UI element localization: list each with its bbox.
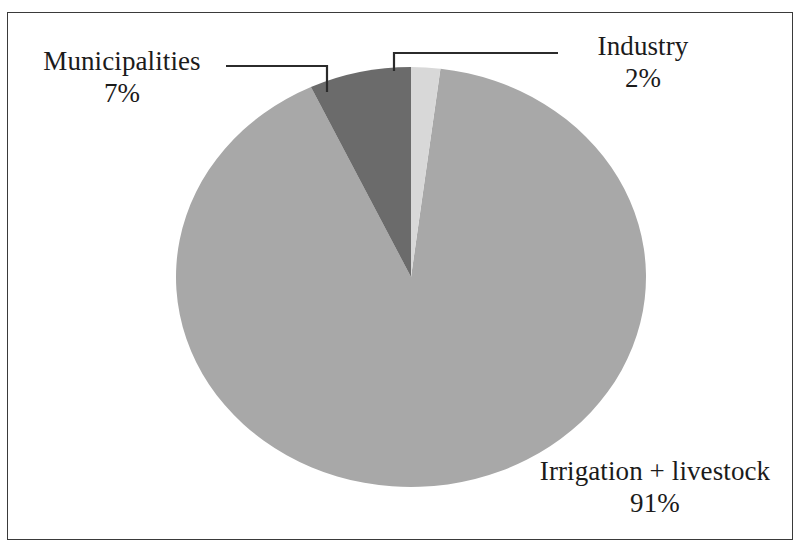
slice-label-irrigation-livestock-name: Irrigation + livestock (530, 456, 780, 488)
slice-label-industry-name: Industry (560, 31, 726, 63)
slice-label-industry-value: 2% (560, 63, 726, 95)
slice-label-irrigation-livestock-value: 91% (530, 488, 780, 520)
pie-chart-figure: Municipalities 7% Industry 2% Irrigation… (0, 0, 801, 552)
slice-label-municipalities: Municipalities 7% (24, 46, 220, 110)
slice-label-irrigation-livestock: Irrigation + livestock 91% (530, 456, 780, 520)
slice-label-municipalities-name: Municipalities (24, 46, 220, 78)
slice-label-municipalities-value: 7% (24, 78, 220, 110)
slice-label-industry: Industry 2% (560, 31, 726, 95)
